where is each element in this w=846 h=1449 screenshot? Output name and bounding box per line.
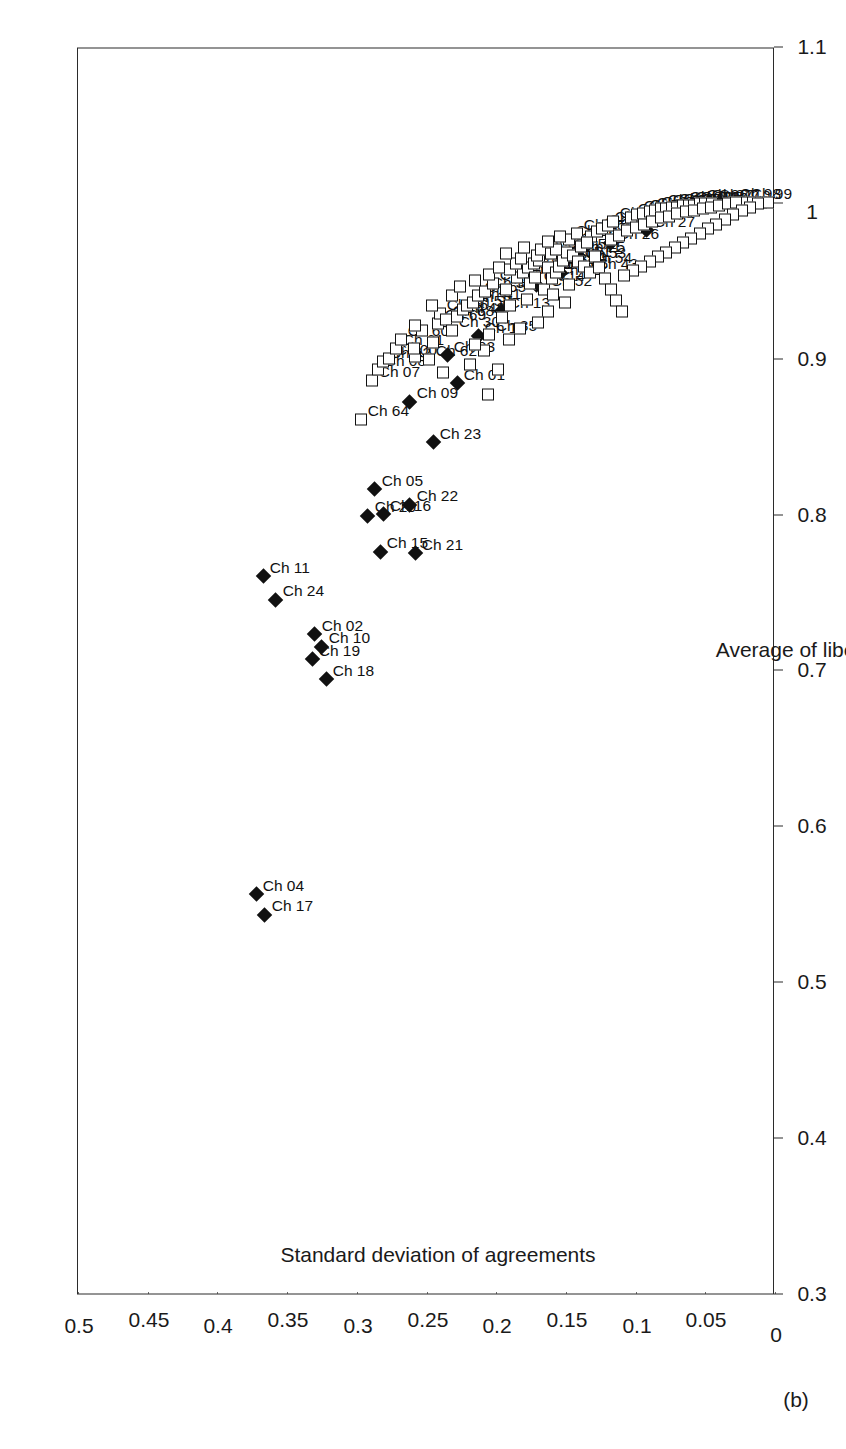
data-point-square: [493, 261, 505, 273]
data-point-square: [454, 280, 466, 292]
data-point-label: Ch 64: [368, 402, 409, 418]
data-point-square: [504, 299, 516, 311]
data-point-square: [607, 215, 619, 227]
y-axis-tick-label: 0.1: [622, 1313, 651, 1337]
data-point-square: [427, 336, 439, 348]
data-point-diamond: [360, 507, 376, 523]
x-axis-tick: [774, 670, 783, 671]
data-point-square: [409, 319, 421, 331]
y-axis-tick-label: 0: [770, 1322, 782, 1346]
x-axis-tick-label: 0.6: [797, 814, 826, 838]
x-axis-tick: [774, 825, 783, 826]
data-point-square: [563, 279, 575, 291]
data-point-diamond: [367, 481, 383, 497]
data-point-square: [532, 316, 544, 328]
x-axis-tick: [774, 1137, 783, 1138]
data-point-square: [529, 271, 541, 283]
y-axis-tick-label: 0.5: [64, 1313, 93, 1337]
y-axis-tick-label: 0.3: [343, 1313, 372, 1337]
data-point-diamond: [318, 671, 334, 687]
data-point-label: Ch 09: [417, 385, 458, 401]
x-axis-tick-label: 0.5: [797, 970, 826, 994]
gridline: [496, 1292, 497, 1293]
data-point-square: [426, 299, 438, 311]
gridline: [148, 1292, 149, 1293]
data-point-square: [469, 338, 481, 350]
data-point-square: [518, 241, 530, 253]
chart-canvas: Ch 17Ch 04Ch 24Ch 11Ch 18Ch 19Ch 10Ch 02…: [0, 0, 846, 1449]
data-point-label: Ch 05: [382, 472, 423, 488]
x-axis-tick-label: 0.9: [797, 346, 826, 370]
data-point-square: [542, 235, 554, 247]
data-point-square: [408, 342, 420, 354]
data-point-square: [446, 324, 458, 336]
data-point-square: [618, 269, 630, 281]
y-axis-tick-label: 0.45: [128, 1308, 169, 1332]
data-point-label: Ch 17: [272, 897, 313, 913]
data-point-label: Ch 18: [333, 662, 374, 678]
data-point-label: Ch 23: [440, 425, 481, 441]
data-point-diamond: [268, 592, 284, 608]
data-point-label: Ch 11: [270, 559, 310, 575]
data-point-diamond: [257, 906, 273, 922]
data-point-square: [423, 353, 435, 365]
x-axis-tick: [774, 981, 783, 982]
y-axis-tick-label: 0.15: [546, 1308, 587, 1332]
data-point-square: [605, 283, 617, 295]
x-axis-tick: [774, 46, 783, 47]
data-point-square: [366, 374, 378, 386]
data-point-square: [483, 328, 495, 340]
data-point-square: [554, 230, 566, 242]
gridline: [78, 1292, 79, 1293]
gridline: [427, 1292, 428, 1293]
data-point-square: [500, 283, 512, 295]
data-point-square: [500, 247, 512, 259]
data-point-square: [599, 272, 611, 284]
data-point-square: [492, 363, 504, 375]
figure-caption: (b): [783, 1387, 809, 1411]
x-axis-tick: [774, 1293, 783, 1294]
data-point-square: [437, 366, 449, 378]
data-point-label: Ch 24: [283, 583, 324, 599]
data-point-square: [395, 333, 407, 345]
gridline: [566, 1292, 567, 1293]
gridline: [705, 1292, 706, 1293]
data-point-square: [514, 322, 526, 334]
data-point-square: [521, 293, 533, 305]
data-point-diamond: [304, 651, 320, 667]
gridline: [287, 1292, 288, 1293]
y-axis-tick-label: 0.4: [204, 1313, 233, 1337]
gridline: [636, 1292, 637, 1293]
data-point-square: [616, 305, 628, 317]
data-point-square: [355, 413, 367, 425]
data-point-square: [593, 261, 605, 273]
x-axis-tick: [774, 202, 783, 203]
data-point-square: [496, 311, 508, 323]
x-axis-title: Average of liberalization agreements: [716, 638, 846, 662]
x-axis-tick-label: 0.3: [797, 1281, 826, 1305]
y-axis-title: Standard deviation of agreements: [280, 1242, 595, 1266]
x-axis-tick-label: 1.1: [797, 34, 826, 58]
plot-area: Ch 17Ch 04Ch 24Ch 11Ch 18Ch 19Ch 10Ch 02…: [77, 47, 774, 1294]
y-axis-tick-label: 0.05: [686, 1308, 727, 1332]
x-axis-tick: [774, 358, 783, 359]
gridline: [217, 1292, 218, 1293]
data-point-square: [581, 236, 593, 248]
data-point-square: [515, 252, 527, 264]
data-point-square: [503, 333, 515, 345]
data-point-square: [559, 296, 571, 308]
data-point-label: Ch 22: [417, 488, 458, 504]
x-axis-tick-label: 0.4: [797, 1126, 826, 1150]
x-axis-tick: [774, 514, 783, 515]
data-point-square: [482, 388, 494, 400]
data-point-square: [589, 250, 601, 262]
data-point-square: [542, 305, 554, 317]
x-axis-tick-label: 1: [806, 199, 818, 223]
data-point-square: [464, 358, 476, 370]
data-point-label: Ch 04: [263, 877, 304, 893]
x-axis-tick-label: 0.8: [797, 502, 826, 526]
y-axis-tick-label: 0.25: [407, 1308, 448, 1332]
data-point-square: [469, 274, 481, 286]
data-point-label: Ch 02: [322, 617, 363, 633]
y-axis-tick-label: 0.2: [483, 1313, 512, 1337]
